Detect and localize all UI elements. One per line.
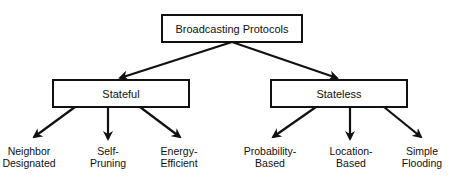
leaf-node-self-pruning: Self- Pruning: [68, 145, 148, 169]
leaf-node-simple-flooding: Simple Flooding: [382, 145, 451, 169]
arrow-stateful-to-energy: [140, 107, 180, 137]
category-node-stateful: Stateful: [52, 79, 190, 108]
leaf-node-neighbor-designated: Neighbor Designated: [0, 145, 69, 169]
leaf-label-line1: Self-: [68, 145, 148, 157]
leaf-label-line1: Simple: [382, 145, 451, 157]
arrow-root-to-stateless: [232, 42, 337, 78]
leaf-label-line2: Designated: [0, 157, 69, 169]
leaf-label-line1: Probability-: [230, 145, 310, 157]
category-label: Stateful: [102, 88, 139, 100]
leaf-label-line1: Location-: [311, 145, 391, 157]
leaf-node-probability-based: Probability- Based: [230, 145, 310, 169]
leaf-label-line2: Pruning: [68, 157, 148, 169]
arrow-root-to-stateful: [120, 42, 232, 78]
category-label: Stateless: [316, 88, 361, 100]
root-node-broadcasting-protocols: Broadcasting Protocols: [161, 14, 303, 43]
leaf-node-energy-efficient: Energy- Efficient: [139, 145, 219, 169]
leaf-label-line2: Based: [311, 157, 391, 169]
arrow-stateful-to-neighbor: [34, 107, 75, 137]
leaf-label-line1: Energy-: [139, 145, 219, 157]
leaf-label-line1: Neighbor: [0, 145, 69, 157]
leaf-label-line2: Based: [230, 157, 310, 169]
root-node-label: Broadcasting Protocols: [175, 23, 288, 35]
leaf-label-line2: Efficient: [139, 157, 219, 169]
category-node-stateless: Stateless: [270, 79, 408, 108]
leaf-node-location-based: Location- Based: [311, 145, 391, 169]
arrow-stateless-to-flooding: [384, 107, 421, 137]
arrow-stateless-to-probability: [273, 107, 316, 137]
leaf-label-line2: Flooding: [382, 157, 451, 169]
